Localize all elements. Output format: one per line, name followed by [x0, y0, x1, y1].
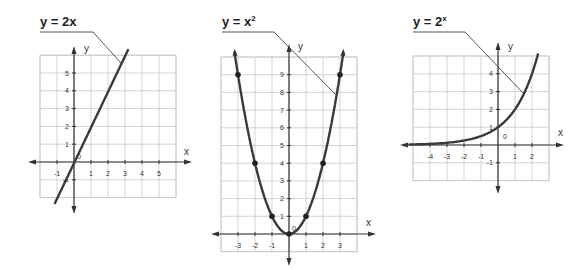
y-tick-label: 1	[65, 141, 69, 148]
y-tick-label: 4	[65, 87, 69, 94]
graph-quadratic-xlabel: x	[366, 217, 371, 228]
x-tick-label: 1	[304, 242, 308, 249]
x-tick-label: 3	[123, 170, 127, 177]
x-tick-label: -1	[269, 242, 275, 249]
x-tick-label: -2	[252, 242, 258, 249]
x-tick-label: 3	[338, 242, 342, 249]
data-point	[269, 214, 275, 220]
data-point	[235, 72, 241, 78]
graph-exponential-curve	[410, 54, 538, 144]
x-tick-label: -4	[427, 153, 433, 160]
y-tick-label: 6	[280, 124, 284, 131]
data-point	[286, 231, 292, 237]
graph-exponential-leader-line	[413, 32, 523, 93]
data-point	[320, 160, 326, 166]
y-tick-label: 2	[489, 106, 493, 113]
graph-linear-title: y = 2x	[40, 14, 77, 29]
y-tick-label: 5	[65, 70, 69, 77]
y-tick-label: 5	[280, 142, 284, 149]
data-point	[252, 160, 258, 166]
x-tick-label: 1	[513, 153, 517, 160]
graph-exponential-xlabel: x	[558, 127, 563, 138]
graph-quadratic-ylabel: y	[298, 41, 303, 52]
y-tick-label: 7	[280, 107, 284, 114]
graph-exponential-ticks: -4-3-2-112-11234	[427, 70, 534, 166]
graph-exponential-origin-label: 0	[503, 133, 507, 140]
x-tick-label: 5	[157, 170, 161, 177]
data-point	[337, 72, 343, 78]
x-tick-label: 1	[89, 170, 93, 177]
x-tick-label: 4	[140, 170, 144, 177]
graph-linear: -112345-112345 y x 0 y = 2x -3-2-1123123…	[0, 0, 587, 270]
graph-quadratic-title: y = x2	[222, 14, 256, 29]
y-tick-label: 3	[280, 177, 284, 184]
y-tick-label: 2	[280, 195, 284, 202]
x-tick-label: -3	[444, 153, 450, 160]
y-tick-label: 4	[280, 160, 284, 167]
data-point	[303, 214, 309, 220]
graph-linear-xlabel: x	[184, 146, 189, 157]
y-tick-label: 3	[65, 105, 69, 112]
y-tick-label: 2	[65, 123, 69, 130]
graph-exponential-axes	[400, 42, 564, 194]
x-tick-label: 2	[321, 242, 325, 249]
x-tick-label: 2	[530, 153, 534, 160]
x-tick-label: 2	[106, 170, 110, 177]
x-tick-label: -3	[235, 242, 241, 249]
y-tick-label: 4	[489, 70, 493, 77]
y-tick-label: -1	[487, 159, 493, 166]
graph-exponential-grid	[413, 56, 549, 181]
graph-linear-ylabel: y	[84, 43, 89, 54]
y-tick-label: 1	[280, 213, 284, 220]
y-tick-label: 8	[280, 89, 284, 96]
graph-exponential-title: y = 2x	[413, 14, 447, 29]
graph-exponential-ylabel: y	[508, 41, 513, 52]
graph-linear-axes	[28, 46, 192, 214]
y-tick-label: 3	[489, 88, 493, 95]
y-tick-label: 9	[280, 71, 284, 78]
x-tick-label: -1	[478, 153, 484, 160]
graph-linear-leader-line	[40, 32, 121, 63]
x-tick-label: -1	[54, 170, 60, 177]
x-tick-label: -2	[461, 153, 467, 160]
